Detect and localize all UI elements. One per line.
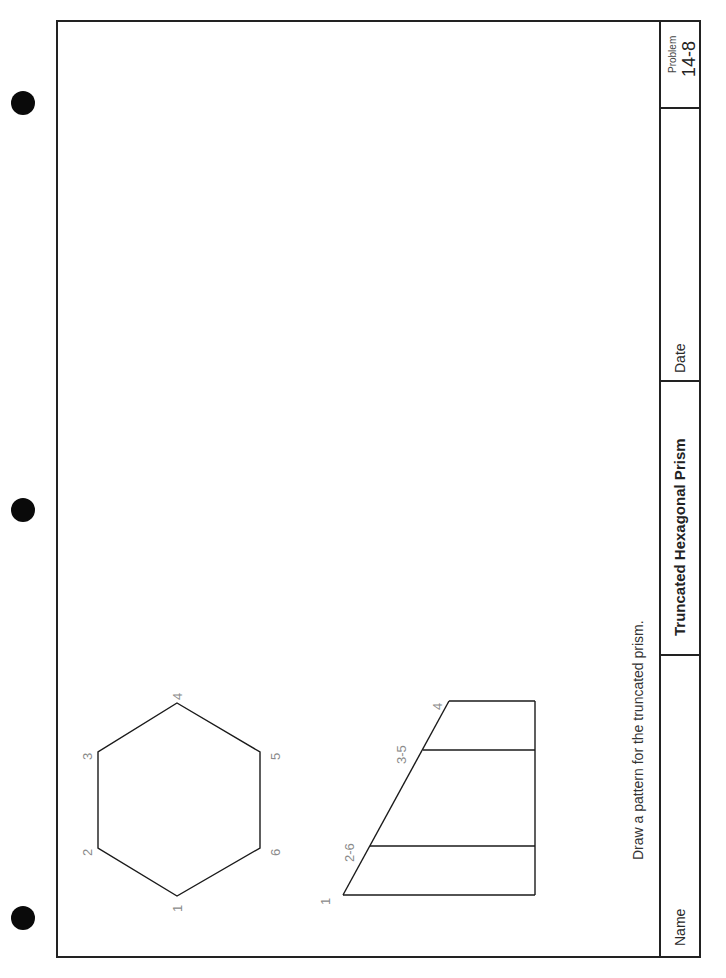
worksheet-title: Truncated Hexagonal Prism bbox=[671, 438, 688, 636]
date-label: Date bbox=[672, 343, 688, 373]
front-label-3-5: 3-5 bbox=[394, 745, 409, 764]
front-label-1: 1 bbox=[318, 898, 333, 905]
front-label-4: 4 bbox=[430, 703, 445, 710]
hex-label-3: 3 bbox=[80, 753, 95, 760]
name-label: Name bbox=[672, 909, 688, 946]
page-border bbox=[57, 21, 700, 957]
problem-number: 14-8 bbox=[679, 41, 700, 77]
hexagon-top-view bbox=[98, 703, 260, 896]
front-label-2-6: 2-6 bbox=[342, 843, 357, 862]
hex-label-1: 1 bbox=[170, 905, 185, 912]
hex-label-6: 6 bbox=[268, 849, 283, 856]
front-view bbox=[343, 701, 535, 895]
hex-label-5: 5 bbox=[268, 753, 283, 760]
instruction-text: Draw a pattern for the truncated prism. bbox=[630, 620, 646, 860]
worksheet-drawing bbox=[0, 0, 726, 978]
hex-label-2: 2 bbox=[80, 849, 95, 856]
problem-label: Problem bbox=[667, 36, 678, 73]
hex-label-4: 4 bbox=[170, 693, 185, 700]
